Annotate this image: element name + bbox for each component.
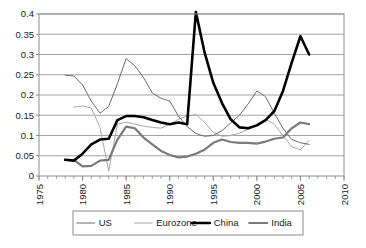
y-tick-label: 0.3: [21, 49, 34, 60]
x-tick-label: 1980: [77, 184, 88, 205]
x-tick-label: 1975: [34, 184, 45, 205]
y-tick-label: 0.2: [21, 89, 34, 100]
y-axis-labels: 00.050.10.150.20.250.30.350.4: [16, 8, 35, 181]
y-tick-label: 0.05: [16, 150, 35, 161]
y-tick-label: 0.15: [16, 110, 35, 121]
x-tick-label: 2000: [251, 184, 262, 205]
y-tick-label: 0.25: [16, 69, 35, 80]
legend-label-india: India: [271, 217, 292, 228]
y-tick-label: 0.4: [21, 8, 34, 19]
y-tick-label: 0: [29, 170, 34, 181]
x-axis-labels: 19751980198519901995200020052010: [34, 184, 350, 205]
x-tick-label: 2005: [295, 184, 306, 205]
chart-legend: USEurozoneChinaIndia: [73, 211, 303, 235]
legend-label-china: China: [214, 217, 240, 228]
x-tick-label: 2010: [339, 184, 350, 205]
legend-label-us: US: [99, 217, 112, 228]
x-axis-ticks: [39, 176, 344, 181]
y-tick-label: 0.1: [21, 130, 34, 141]
x-tick-label: 1995: [208, 184, 219, 205]
x-tick-label: 1985: [121, 184, 132, 205]
chart-container: 00.050.10.150.20.250.30.350.4 1975198019…: [0, 0, 366, 248]
y-tick-label: 0.35: [16, 29, 35, 40]
x-tick-label: 1990: [164, 184, 175, 205]
line-chart: 00.050.10.150.20.250.30.350.4 1975198019…: [0, 0, 366, 248]
